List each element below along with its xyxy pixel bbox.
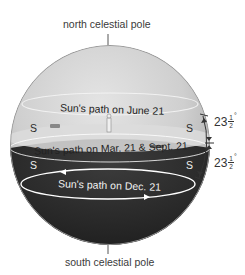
celestial-sphere-graphic — [0, 0, 245, 275]
angle-label-upper: 23 1 2 ° — [214, 114, 237, 129]
angle-unit: ° — [234, 153, 237, 160]
south-mark-upper-right: S — [186, 122, 193, 134]
south-mark-lower-right: S — [186, 159, 193, 171]
angle-unit: ° — [234, 112, 237, 119]
south-mark-upper-left: S — [30, 122, 37, 134]
south-mark-lower-left: S — [30, 159, 37, 171]
angle-whole: 23 — [214, 156, 227, 170]
angle-label-lower: 23 1 2 ° — [214, 155, 237, 170]
south-celestial-pole-label: south celestial pole — [65, 256, 154, 268]
angle-denominator: 2 — [228, 122, 234, 129]
angle-denominator: 2 — [228, 163, 234, 170]
angle-whole: 23 — [214, 115, 227, 129]
observer-figure-icon — [107, 114, 111, 132]
celestial-sphere-diagram: north celestial pole south celestial pol… — [0, 0, 245, 275]
north-celestial-pole-label: north celestial pole — [63, 18, 151, 30]
